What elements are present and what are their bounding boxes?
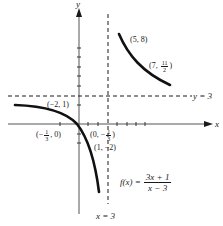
point-prefix: (7, — [149, 61, 160, 70]
fraction-num: 1 — [106, 129, 111, 136]
y-axis-arrow-icon — [76, 8, 82, 17]
function-denominator: x − 3 — [148, 183, 167, 193]
point-suffix: ) — [169, 61, 172, 70]
function-fraction: 3x + 1x − 3 — [144, 172, 172, 193]
fraction-num: 11 — [161, 60, 169, 67]
function-lhs: f(x) = — [120, 177, 141, 187]
point-label-neg-third-0: (−13, 0) — [36, 129, 61, 142]
x-axis-label: x — [215, 119, 219, 129]
graph-canvas — [0, 0, 223, 226]
point-prefix: (− — [36, 130, 43, 139]
vertical-asymptote-label: x = 3 — [96, 211, 115, 221]
function-formula: f(x) =3x + 1x − 3 — [120, 172, 171, 193]
fraction-den: 3 — [107, 136, 110, 142]
x-axis-arrow-icon — [204, 121, 213, 127]
fraction-num: 1 — [44, 129, 49, 136]
horizontal-asymptote-label: y = 3 — [193, 91, 212, 101]
point-suffix: ) — [112, 130, 115, 139]
point-label-1-neg2: (1, −2) — [94, 143, 116, 153]
fraction-den: 2 — [163, 67, 166, 73]
point-suffix: , 0) — [50, 130, 61, 139]
fraction: 13 — [106, 129, 111, 142]
point-label-7-11-2: (7, 112) — [149, 60, 172, 73]
point-prefix: (0, − — [90, 130, 105, 139]
y-eq-3-label: y = 3 — [193, 91, 212, 101]
y-axis-label: y — [76, 0, 80, 9]
fraction: 112 — [161, 60, 169, 73]
fraction-den: 3 — [45, 136, 48, 142]
point-label-5-8: (5, 8) — [130, 35, 147, 45]
curve-left-branch — [15, 105, 99, 192]
point-label-0-neg-third: (0, −13) — [90, 129, 115, 142]
function-numerator: 3x + 1 — [144, 172, 172, 183]
x-eq-3-label: x = 3 — [96, 211, 115, 221]
point-label-neg2-1: (−2, 1) — [47, 100, 69, 110]
fraction: 13 — [44, 129, 49, 142]
